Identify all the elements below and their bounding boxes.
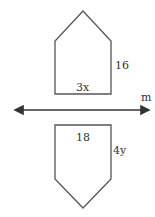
- top-side-label: 16: [115, 59, 129, 72]
- bottom-side-label: 4y: [113, 144, 127, 157]
- bottom-base-label: 18: [76, 131, 90, 144]
- top-base-label: 3x: [76, 81, 90, 94]
- reflection-diagram: 3x 16 m 18 4y: [0, 0, 155, 217]
- line-m-label: m: [141, 91, 152, 104]
